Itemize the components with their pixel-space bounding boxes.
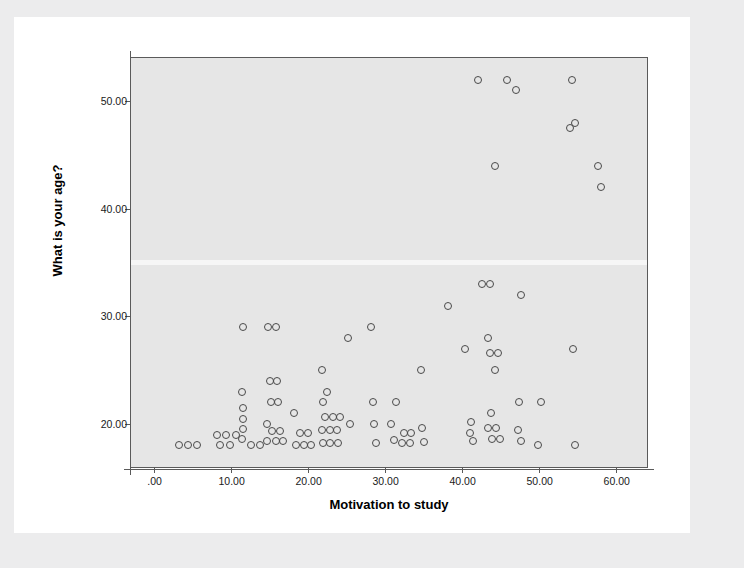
data-point bbox=[336, 413, 344, 421]
data-point bbox=[323, 388, 331, 396]
data-point bbox=[273, 377, 281, 385]
data-point bbox=[392, 398, 400, 406]
data-point bbox=[515, 398, 523, 406]
data-point bbox=[318, 366, 326, 374]
data-point bbox=[263, 437, 271, 445]
x-tick-mark: .00 bbox=[154, 467, 155, 473]
x-tick-mark: 10.00 bbox=[231, 467, 232, 473]
data-point bbox=[514, 426, 522, 434]
data-point bbox=[175, 441, 183, 449]
scatter-chart: 20.0030.0040.0050.00.0010.0020.0030.0040… bbox=[14, 17, 690, 533]
y-tick-label: 20.00 bbox=[101, 418, 127, 430]
plot-frame: 20.0030.0040.0050.00.0010.0020.0030.0040… bbox=[130, 57, 648, 468]
scan-band bbox=[131, 260, 647, 265]
data-point bbox=[226, 441, 234, 449]
data-point bbox=[466, 429, 474, 437]
data-point bbox=[469, 437, 477, 445]
data-point bbox=[534, 441, 542, 449]
data-point bbox=[370, 420, 378, 428]
data-point bbox=[512, 86, 520, 94]
data-point bbox=[319, 398, 327, 406]
data-point bbox=[418, 424, 426, 432]
data-point bbox=[594, 162, 602, 170]
data-point bbox=[213, 431, 221, 439]
x-tick-mark: 50.00 bbox=[539, 467, 540, 473]
data-point bbox=[517, 437, 525, 445]
x-axis-line bbox=[124, 469, 654, 470]
data-point bbox=[276, 427, 284, 435]
data-point bbox=[474, 76, 482, 84]
x-tick-label: .00 bbox=[147, 475, 162, 487]
data-point bbox=[369, 398, 377, 406]
data-point bbox=[222, 431, 230, 439]
data-point bbox=[444, 302, 452, 310]
data-point bbox=[274, 398, 282, 406]
data-point bbox=[503, 76, 511, 84]
data-point bbox=[467, 418, 475, 426]
data-point bbox=[571, 119, 579, 127]
x-tick-label: 10.00 bbox=[218, 475, 244, 487]
data-point bbox=[492, 424, 500, 432]
x-tick-label: 40.00 bbox=[450, 475, 476, 487]
data-point bbox=[487, 409, 495, 417]
data-point bbox=[461, 345, 469, 353]
data-point bbox=[247, 441, 255, 449]
data-point bbox=[496, 435, 504, 443]
data-point bbox=[420, 438, 428, 446]
data-point bbox=[318, 426, 326, 434]
y-axis-title: What is your age? bbox=[50, 126, 65, 316]
data-point bbox=[264, 323, 272, 331]
data-point bbox=[569, 345, 577, 353]
data-point bbox=[346, 420, 354, 428]
data-point bbox=[597, 183, 605, 191]
data-point bbox=[494, 349, 502, 357]
data-point bbox=[184, 441, 192, 449]
x-axis-title: Motivation to study bbox=[130, 497, 648, 512]
x-tick-label: 50.00 bbox=[527, 475, 553, 487]
x-tick-label: 60.00 bbox=[604, 475, 630, 487]
y-tick-label: 50.00 bbox=[101, 95, 127, 107]
data-point bbox=[216, 441, 224, 449]
data-point bbox=[406, 439, 414, 447]
data-point bbox=[344, 334, 352, 342]
data-point bbox=[517, 291, 525, 299]
x-tick-mark: 40.00 bbox=[462, 467, 463, 473]
data-point bbox=[571, 441, 579, 449]
data-point bbox=[238, 388, 246, 396]
data-point bbox=[491, 366, 499, 374]
data-point bbox=[239, 415, 247, 423]
data-point bbox=[407, 429, 415, 437]
data-point bbox=[292, 441, 300, 449]
data-point bbox=[486, 280, 494, 288]
data-point bbox=[486, 349, 494, 357]
data-point bbox=[239, 425, 247, 433]
data-point bbox=[387, 420, 395, 428]
data-point bbox=[238, 435, 246, 443]
data-point bbox=[491, 162, 499, 170]
data-point bbox=[193, 441, 201, 449]
data-point bbox=[304, 429, 312, 437]
data-point bbox=[367, 323, 375, 331]
data-point bbox=[398, 439, 406, 447]
data-point bbox=[488, 435, 496, 443]
data-point bbox=[333, 426, 341, 434]
x-tick-mark: 60.00 bbox=[616, 467, 617, 473]
data-point bbox=[484, 334, 492, 342]
data-point bbox=[568, 76, 576, 84]
data-point bbox=[268, 427, 276, 435]
page-canvas: 20.0030.0040.0050.00.0010.0020.0030.0040… bbox=[14, 17, 690, 533]
x-tick-label: 20.00 bbox=[295, 475, 321, 487]
y-tick-label: 40.00 bbox=[101, 203, 127, 215]
data-point bbox=[279, 437, 287, 445]
data-point bbox=[321, 413, 329, 421]
data-point bbox=[478, 280, 486, 288]
data-point bbox=[307, 441, 315, 449]
data-point bbox=[372, 439, 380, 447]
plot-inner bbox=[131, 58, 647, 467]
data-point bbox=[537, 398, 545, 406]
data-point bbox=[290, 409, 298, 417]
data-point bbox=[239, 404, 247, 412]
data-point bbox=[239, 323, 247, 331]
data-point bbox=[417, 366, 425, 374]
data-point bbox=[334, 439, 342, 447]
